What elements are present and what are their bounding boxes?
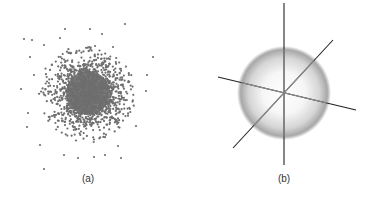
panel-b-sphere: (b) (189, 0, 378, 202)
sphere-with-axes (189, 0, 378, 202)
caption-a: (a) (68, 173, 108, 184)
caption-b: (b) (264, 173, 304, 184)
gaussian-scatter-plot (0, 0, 189, 202)
panel-a-scatter: (a) (0, 0, 189, 202)
scatter-points (20, 23, 154, 170)
